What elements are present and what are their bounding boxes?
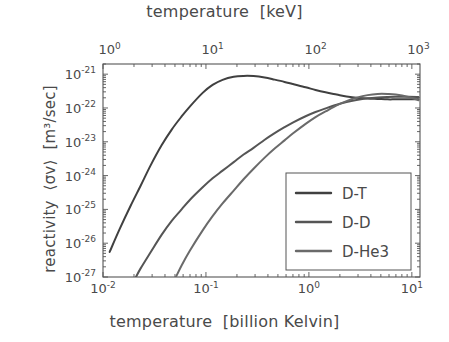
legend-label-d-t: D-T <box>342 185 368 203</box>
legend-box: D-TD-DD-He3 <box>286 173 411 270</box>
legend-label-d-he3: D-He3 <box>342 243 389 261</box>
plot-area: D-TD-DD-He3 <box>0 0 449 342</box>
legend-label-d-d: D-D <box>342 214 371 232</box>
fusion-reactivity-figure: temperature [keV] temperature [billion K… <box>0 0 449 342</box>
